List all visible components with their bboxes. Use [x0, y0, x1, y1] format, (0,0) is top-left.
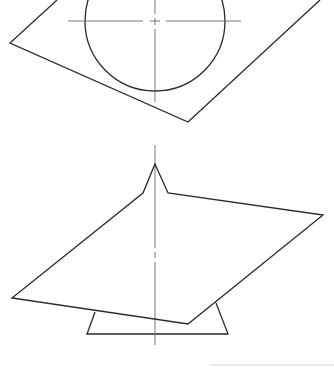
base-trapezoid [87, 303, 228, 334]
bottom-view [12, 145, 323, 345]
folded-sheet-outline [12, 164, 323, 324]
technical-drawing [0, 0, 334, 367]
top-view [10, 0, 320, 122]
plane-outline [10, 0, 320, 122]
